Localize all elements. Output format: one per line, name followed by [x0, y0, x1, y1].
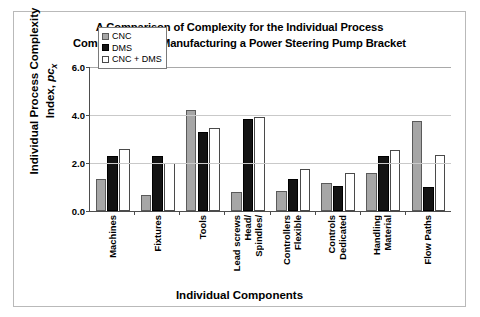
x-tick: Spindles/Head/Lead screws [224, 213, 269, 291]
x-tick-label-line: Head/ [241, 215, 252, 241]
bar [390, 150, 401, 211]
chart-title-line-2: Components for Manufacturing a Power Ste… [14, 36, 465, 52]
y-axis-title-text: Individual Process Complexity Index, [28, 8, 56, 175]
x-tick: Machines [89, 213, 134, 291]
bar [288, 179, 299, 211]
y-tickmark [86, 163, 90, 164]
plot-area: 0.02.04.06.0 [89, 67, 451, 212]
bar-group [271, 67, 316, 211]
bar-group [180, 67, 225, 211]
x-tick: Flow Paths [405, 213, 450, 291]
bar-groups [90, 67, 451, 211]
legend-label: CNC + DMS [112, 54, 162, 64]
x-tick-label: Machines [106, 215, 117, 258]
x-tick: Tools [179, 213, 224, 291]
bar [243, 119, 254, 211]
x-axis-tick-labels: MachinesFixturesToolsSpindles/Head/Lead … [89, 213, 450, 291]
bar [231, 192, 242, 211]
plot-inner: 0.02.04.06.0 [90, 67, 451, 211]
bar [333, 186, 344, 211]
bar [119, 149, 130, 211]
x-tick-label-line: Lead screws [230, 215, 241, 271]
x-tick-label-line: Flexible [292, 215, 303, 250]
x-tick-label-line: Dedicated [337, 215, 348, 260]
bar [164, 163, 175, 211]
bar [254, 117, 265, 211]
bar [186, 110, 197, 211]
chart-legend: CNCDMSCNC + DMS [98, 27, 167, 69]
bar [209, 128, 220, 211]
legend-item[interactable]: DMS [102, 42, 162, 53]
legend-label: DMS [112, 43, 132, 53]
y-tick-label: 4.0 [72, 110, 85, 121]
x-tick-label-line: Fixtures [151, 215, 162, 251]
gridline-4.0 [90, 115, 451, 116]
x-tick-label-line: Machines [106, 215, 117, 258]
bar [345, 173, 356, 211]
x-tick-label: Flow Paths [422, 215, 433, 264]
bar-group [90, 67, 135, 211]
x-tick-label: MaterialHandling [371, 215, 393, 255]
y-axis-title: Individual Process Complexity Index, pcx [26, 0, 60, 186]
x-tick-label-line: Controllers [281, 215, 292, 265]
bar [366, 173, 377, 211]
x-tick-label: FlexibleControllers [281, 215, 303, 265]
x-tick: FlexibleControllers [270, 213, 315, 291]
bar [198, 132, 209, 211]
x-tick-label-line: Handling [371, 215, 382, 255]
bar-group [406, 67, 451, 211]
legend-swatch-icon [102, 56, 109, 63]
x-axis-title: Individual Components [14, 289, 465, 301]
gridline-2.0 [90, 163, 451, 164]
x-tick-label: Fixtures [151, 215, 162, 251]
chart-figure: A Comparison of Complexity for the Indiv… [13, 11, 466, 307]
y-tickmark [86, 115, 90, 116]
x-tick: MaterialHandling [360, 213, 405, 291]
x-tick: DedicatedControls [315, 213, 360, 291]
bar-group [225, 67, 270, 211]
x-tick-label: Tools [196, 215, 207, 239]
legend-item[interactable]: CNC [102, 31, 162, 42]
x-tick: Fixtures [134, 213, 179, 291]
bar [152, 156, 163, 211]
legend-label: CNC [112, 31, 132, 41]
x-tick-label-line: Spindles/ [252, 215, 263, 257]
y-axis-title-symbol: pcx [44, 64, 56, 82]
bar [276, 191, 287, 211]
bar [300, 169, 311, 211]
y-tick-label: 6.0 [72, 62, 85, 73]
x-tick-label-line: Material [382, 215, 393, 250]
bar [412, 121, 423, 211]
legend-item[interactable]: CNC + DMS [102, 54, 162, 65]
bar [321, 183, 332, 211]
bar [378, 156, 389, 211]
x-tick-label: DedicatedControls [326, 215, 348, 260]
bar [107, 156, 118, 211]
x-tick-label-line: Tools [196, 215, 207, 239]
bar [423, 187, 434, 211]
legend-swatch-icon [102, 44, 109, 51]
legend-swatch-icon [102, 33, 109, 40]
y-tick-label: 0.0 [72, 206, 85, 217]
x-tick-label-line: Controls [326, 215, 337, 254]
bar [141, 195, 152, 211]
y-tick-label: 2.0 [72, 158, 85, 169]
chart-title-line-1: A Comparison of Complexity for the Indiv… [14, 20, 465, 36]
y-tickmark [86, 211, 90, 212]
chart-title: A Comparison of Complexity for the Indiv… [14, 20, 465, 51]
y-tickmark [86, 67, 90, 68]
bar-group [361, 67, 406, 211]
bar [96, 179, 107, 211]
bar-group [135, 67, 180, 211]
bar-group [316, 67, 361, 211]
x-tick-label-line: Flow Paths [422, 215, 433, 264]
x-tick-label: Spindles/Head/Lead screws [230, 215, 263, 271]
